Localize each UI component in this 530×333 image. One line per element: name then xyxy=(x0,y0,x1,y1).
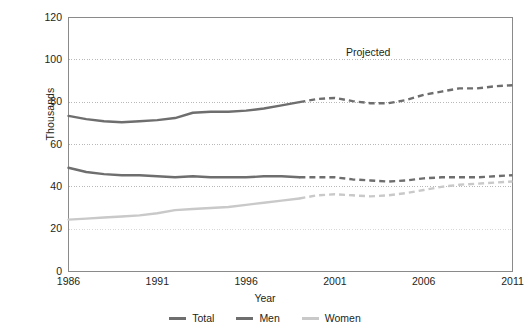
series-line-women-historical xyxy=(69,198,300,219)
x-tick-label: 2011 xyxy=(483,275,530,287)
chart-container: Thousands 020406080100120 19861991199620… xyxy=(0,0,530,333)
series-line-total-historical xyxy=(69,102,300,122)
y-tick-text: 60 xyxy=(18,139,62,150)
legend-label: Women xyxy=(325,312,361,324)
legend-item-total[interactable]: Total xyxy=(169,312,214,324)
projected-annotation: Projected xyxy=(346,46,390,58)
x-tick-label: 2006 xyxy=(394,275,454,287)
series-line-total-projected xyxy=(299,85,512,103)
legend-item-women[interactable]: Women xyxy=(302,312,361,324)
y-tick-text: 120 xyxy=(18,12,62,23)
x-tick-label: 1986 xyxy=(39,275,99,287)
series-line-women-projected xyxy=(299,182,512,199)
legend-label: Total xyxy=(192,312,214,324)
legend-swatch-icon xyxy=(169,317,186,320)
chart-legend: TotalMenWomen xyxy=(0,312,530,324)
legend-swatch-icon xyxy=(236,317,253,320)
x-axis-title: Year xyxy=(0,292,530,304)
y-tick-text: 80 xyxy=(18,96,62,107)
x-tick-label: 1991 xyxy=(127,275,187,287)
legend-label: Men xyxy=(259,312,279,324)
legend-swatch-icon xyxy=(302,317,319,320)
y-tick-text: 100 xyxy=(18,54,62,65)
series-line-men-historical xyxy=(69,168,300,178)
y-tick-text: 20 xyxy=(18,223,62,234)
x-tick-label: 1996 xyxy=(216,275,276,287)
series-line-men-projected xyxy=(299,175,512,181)
legend-item-men[interactable]: Men xyxy=(236,312,279,324)
y-tick-text: 40 xyxy=(18,181,62,192)
x-tick-label: 2001 xyxy=(305,275,365,287)
